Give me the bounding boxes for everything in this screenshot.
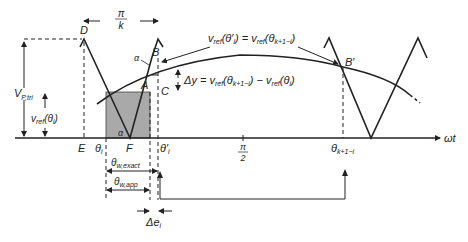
axis-label: ωt [444, 132, 457, 144]
symmetry-bracket [160, 174, 345, 199]
point-b: B [152, 46, 159, 58]
vptri-label: VP,tri [14, 87, 33, 101]
point-a: A [140, 79, 148, 91]
span-num: π [118, 8, 125, 19]
carrier-right [324, 38, 427, 138]
point-e: E [78, 142, 86, 154]
tick-theta-i: θi [95, 142, 103, 155]
point-c: C [161, 85, 169, 97]
vref-theta-i-label: vref(θi) [31, 113, 58, 125]
alpha-top: α [134, 53, 140, 63]
delta-e-label: Δei [145, 216, 162, 229]
tick-pi-over-2-num: π [240, 142, 247, 152]
tick-theta-i-prime: θ′i [160, 142, 170, 155]
theta-w-app-label: θw,app [114, 176, 138, 189]
pwm-diagram: ωt π k VP,tri vref(θi) D E F A B C B′ α … [0, 0, 468, 242]
symmetry-equation: vref(θ′i) = vref(θk+1−i) [208, 32, 296, 45]
point-f: F [126, 142, 134, 154]
tick-theta-k1i: θk+1−i [331, 142, 355, 155]
point-d: D [80, 24, 88, 36]
alpha-bottom: α [118, 128, 124, 138]
delta-y-equation: Δy = vref(θk+1−i) − vref(θi) [183, 74, 295, 87]
tick-pi-over-2-den: 2 [239, 153, 245, 163]
span-den: k [119, 20, 125, 31]
point-b-prime: B′ [345, 56, 355, 68]
theta-w-exact-label: θw,exact [111, 157, 141, 169]
